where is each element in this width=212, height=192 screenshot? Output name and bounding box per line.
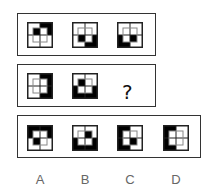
option-c-label[interactable]: C <box>120 172 140 187</box>
figure-row2-1 <box>27 73 53 99</box>
option-d-figure[interactable] <box>163 125 189 151</box>
figure-row1-2 <box>72 22 98 48</box>
figure-row1-3 <box>117 22 143 48</box>
figure-row1-1 <box>27 22 53 48</box>
option-d-label[interactable]: D <box>166 172 186 187</box>
option-b-figure[interactable] <box>72 125 98 151</box>
figure-row2-2 <box>72 73 98 99</box>
option-a-figure[interactable] <box>27 125 53 151</box>
option-a-label[interactable]: A <box>30 172 50 187</box>
question-mark: ? <box>122 80 133 104</box>
option-b-label[interactable]: B <box>75 172 95 187</box>
option-c-figure[interactable] <box>117 125 143 151</box>
